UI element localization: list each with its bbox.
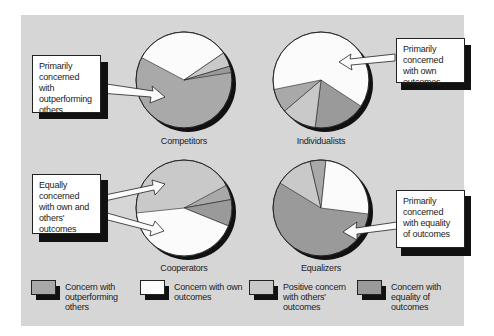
pie-competitors <box>136 32 236 132</box>
pie-cooperators <box>136 160 236 260</box>
callout-cooperators: Equally concerned with own and others' o… <box>32 174 101 234</box>
pie-label-competitors: Competitors <box>134 136 234 146</box>
callout-competitors: Primarily concerned with outperforming o… <box>32 55 101 113</box>
legend-swatch <box>249 280 279 300</box>
pie-label-cooperators: Cooperators <box>134 263 234 273</box>
callout-individualists: Primarily concerned with own outcomes <box>396 38 465 83</box>
legend-swatch <box>140 280 170 300</box>
callout-equalizers: Primarily concerned with equality of out… <box>396 190 465 248</box>
legend-swatch <box>31 280 61 300</box>
pie-individualists <box>273 32 373 132</box>
legend-swatch <box>357 280 387 300</box>
pie-label-equalizers: Equalizers <box>271 263 371 273</box>
pie-equalizers <box>273 160 373 260</box>
pie-label-individualists: Individualists <box>271 136 371 146</box>
